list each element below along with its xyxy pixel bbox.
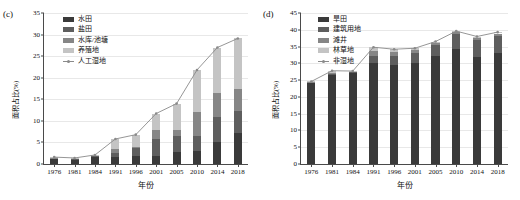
x-axis-tick-label: 2005 <box>170 168 184 176</box>
legend-item[interactable]: 水田 <box>63 14 108 25</box>
legend-item[interactable]: 林草地 <box>318 46 361 57</box>
y-axis-tick-label: 10 <box>33 117 44 125</box>
legend-line-marker-icon <box>318 59 329 64</box>
y-axis-label-wrap-c: 面积占比(%) <box>17 0 29 200</box>
panel-label-c: (c) <box>3 9 13 19</box>
y-axis-tick-label: 10 <box>290 126 301 134</box>
line-series-marker <box>94 154 97 157</box>
x-axis-tick-mark <box>415 164 416 167</box>
legend-item-label: 非湿地 <box>333 58 354 65</box>
line-series-marker <box>114 138 117 141</box>
line-series-marker <box>476 35 479 38</box>
x-axis-tick-label: 2001 <box>408 168 422 176</box>
legend-item-label: 旱田 <box>333 16 347 23</box>
legend-item[interactable]: 滩井 <box>318 35 361 46</box>
x-axis-tick-mark <box>238 164 239 167</box>
legend-item-label: 水田 <box>78 16 92 23</box>
y-axis-tick-label: 0 <box>294 160 302 168</box>
line-series-marker <box>351 70 354 73</box>
y-axis-tick-label: 0 <box>37 160 45 168</box>
x-axis-tick-mark <box>54 164 55 167</box>
x-axis-tick-mark <box>332 164 333 167</box>
line-series-marker <box>196 69 199 72</box>
x-axis-tick-mark <box>311 164 312 167</box>
x-axis-tick-mark <box>136 164 137 167</box>
line-series-marker <box>331 69 334 72</box>
x-axis-tick-mark <box>353 164 354 167</box>
legend-color-swatch <box>63 17 74 22</box>
line-series-marker <box>237 37 240 40</box>
legend-d: 旱田建筑用地滩井林草地非湿地 <box>318 14 361 67</box>
x-axis-tick-mark <box>394 164 395 167</box>
legend-item[interactable]: 盐田 <box>63 25 108 36</box>
x-axis-tick-label: 1984 <box>88 168 102 176</box>
y-axis-tick-label: 5 <box>37 138 45 146</box>
x-axis-tick-label: 1981 <box>68 168 82 176</box>
x-axis-tick-mark <box>156 164 157 167</box>
y-axis-tick-label: 45 <box>290 9 301 17</box>
legend-color-swatch <box>63 27 74 32</box>
legend-line-marker-icon <box>63 59 74 64</box>
legend-item-label: 养殖地 <box>78 47 99 54</box>
legend-item-label: 水库/池塘 <box>78 37 108 44</box>
figure-container: (c) 面积占比(%) 0510152025303519761981198419… <box>0 0 520 200</box>
x-axis-tick-label: 1996 <box>387 168 401 176</box>
line-series-marker <box>73 157 76 160</box>
panel-label-d: (d) <box>263 9 274 19</box>
y-axis-label-wrap-d: 面积占比(%) <box>277 0 289 200</box>
legend-color-swatch <box>63 38 74 43</box>
x-axis-tick-label: 1996 <box>129 168 143 176</box>
x-axis-tick-mark <box>498 164 499 167</box>
x-axis-tick-mark <box>217 164 218 167</box>
x-axis-tick-label: 2018 <box>231 168 245 176</box>
legend-item-label: 人工湿地 <box>78 58 106 65</box>
y-axis-tick-label: 25 <box>290 76 301 84</box>
legend-item[interactable]: 人工湿地 <box>63 56 108 67</box>
legend-item[interactable]: 非湿地 <box>318 56 361 67</box>
line-series-marker <box>414 47 417 50</box>
line-series-marker <box>434 40 437 43</box>
legend-item[interactable]: 水库/池塘 <box>63 35 108 46</box>
line-series-marker <box>155 112 158 115</box>
chart-panel-d: (d) 面积占比(%) 0510152025303540451976198119… <box>260 0 520 200</box>
legend-item-label: 盐田 <box>78 26 92 33</box>
x-axis-tick-mark <box>456 164 457 167</box>
x-axis-tick-mark <box>477 164 478 167</box>
y-axis-tick-label: 35 <box>33 9 44 17</box>
line-series-marker <box>393 48 396 51</box>
x-axis-tick-mark <box>115 164 116 167</box>
line-series-marker <box>455 30 458 33</box>
y-axis-label-c: 面积占比(%) <box>10 81 20 120</box>
legend-color-swatch <box>318 48 329 53</box>
y-axis-tick-label: 35 <box>290 43 301 51</box>
x-axis-tick-mark <box>75 164 76 167</box>
chart-panel-c: (c) 面积占比(%) 0510152025303519761981198419… <box>0 0 260 200</box>
x-axis-tick-label: 2014 <box>470 168 484 176</box>
y-axis-tick-label: 5 <box>294 143 302 151</box>
legend-item[interactable]: 旱田 <box>318 14 361 25</box>
x-axis-tick-mark <box>177 164 178 167</box>
x-axis-tick-label: 1976 <box>47 168 61 176</box>
x-axis-tick-mark <box>95 164 96 167</box>
x-axis-tick-label: 2018 <box>491 168 505 176</box>
y-axis-tick-label: 25 <box>33 52 44 60</box>
x-axis-tick-label: 2010 <box>449 168 463 176</box>
legend-item[interactable]: 建筑用地 <box>318 25 361 36</box>
x-axis-tick-label: 1981 <box>325 168 339 176</box>
legend-item-label: 建筑用地 <box>333 26 361 33</box>
y-axis-tick-label: 20 <box>290 93 301 101</box>
line-series-marker <box>496 31 499 34</box>
line-series-marker <box>310 80 313 83</box>
legend-color-swatch <box>318 27 329 32</box>
legend-color-swatch <box>318 38 329 43</box>
legend-item[interactable]: 养殖地 <box>63 46 108 57</box>
legend-item-label: 林草地 <box>333 47 354 54</box>
legend-color-swatch <box>318 17 329 22</box>
x-axis-tick-label: 2010 <box>190 168 204 176</box>
y-axis-tick-label: 40 <box>290 26 301 34</box>
x-axis-tick-label: 2014 <box>210 168 224 176</box>
y-axis-tick-label: 20 <box>33 74 44 82</box>
y-axis-tick-label: 15 <box>290 110 301 118</box>
legend-c: 水田盐田水库/池塘养殖地人工湿地 <box>63 14 108 67</box>
x-axis-tick-label: 1984 <box>346 168 360 176</box>
